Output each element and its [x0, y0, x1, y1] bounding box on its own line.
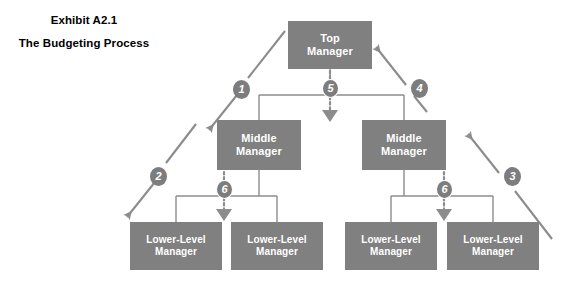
node-middle-manager-left-label: Middle Manager [233, 132, 285, 158]
step-badge-6-left: 6 [216, 180, 233, 199]
step-badge-1-label: 1 [238, 84, 244, 95]
node-lower-manager-1[interactable]: Lower-Level Manager [130, 222, 222, 270]
node-top-manager[interactable]: Top Manager [288, 21, 372, 69]
node-lower-manager-1-label: Lower-Level Manager [143, 234, 208, 258]
node-lower-manager-4-label: Lower-Level Manager [460, 234, 525, 258]
node-lower-manager-3[interactable]: Lower-Level Manager [345, 222, 437, 270]
node-lower-manager-4[interactable]: Lower-Level Manager [447, 222, 539, 270]
step-badge-2-label: 2 [155, 171, 161, 182]
node-top-manager-label: Top Manager [304, 32, 356, 58]
step-badge-3-label: 3 [509, 171, 515, 182]
step-badge-6-right: 6 [436, 180, 453, 199]
exhibit-diagram: Exhibit A2.1 The Budgeting Process [0, 0, 580, 289]
node-middle-manager-left[interactable]: Middle Manager [217, 120, 301, 170]
node-lower-manager-3-label: Lower-Level Manager [358, 234, 423, 258]
node-middle-manager-right[interactable]: Middle Manager [362, 120, 446, 170]
step-badge-5-label: 5 [327, 83, 333, 94]
step-badge-4-label: 4 [416, 83, 422, 94]
step-badge-3: 3 [504, 167, 521, 186]
step-badge-4: 4 [411, 79, 428, 98]
node-lower-manager-2-label: Lower-Level Manager [244, 234, 309, 258]
step-badge-1: 1 [233, 80, 250, 99]
step-badge-5: 5 [322, 79, 339, 98]
node-lower-manager-2[interactable]: Lower-Level Manager [231, 222, 323, 270]
step-badge-2: 2 [150, 167, 167, 186]
node-middle-manager-right-label: Middle Manager [378, 132, 430, 158]
step-badge-6-right-label: 6 [441, 184, 447, 195]
diagonal-arrow-step-1 [209, 31, 285, 130]
step-badge-6-left-label: 6 [221, 184, 227, 195]
